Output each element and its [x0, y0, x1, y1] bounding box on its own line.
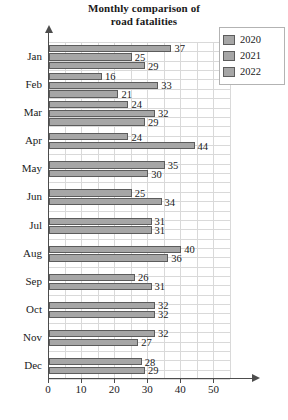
- bar: [49, 283, 152, 290]
- legend-swatch-icon: [223, 35, 235, 45]
- bar: [49, 189, 132, 196]
- chart-title: Monthly comparison of road fatalities: [0, 2, 288, 28]
- bar: [49, 198, 162, 205]
- bar-value-label: 32: [158, 108, 169, 119]
- bar-value-label: 27: [141, 337, 152, 348]
- bar: [49, 90, 118, 97]
- bar: [49, 367, 145, 374]
- bar: [49, 254, 168, 261]
- bar: [49, 311, 155, 318]
- bar-value-label: 37: [174, 43, 185, 54]
- y-axis-label-jul: Jul: [29, 219, 42, 231]
- x-axis-tick-label: 30: [142, 383, 153, 395]
- legend-label: 2020: [240, 35, 261, 46]
- bar: [49, 73, 102, 80]
- bar-value-label: 16: [105, 71, 116, 82]
- bar: [49, 330, 155, 337]
- x-axis-arrow-icon: [252, 374, 260, 382]
- bar: [49, 45, 171, 52]
- y-axis-label-jun: Jun: [27, 190, 42, 202]
- bar: [49, 246, 181, 253]
- legend-label: 2021: [240, 51, 261, 62]
- bar-chart: Monthly comparison of road fatalities Ja…: [0, 0, 288, 420]
- bar-value-label: 30: [151, 168, 162, 179]
- bar-value-label: 25: [135, 188, 146, 199]
- y-axis: [48, 32, 49, 379]
- bar: [49, 133, 128, 140]
- bar-value-label: 29: [148, 60, 159, 71]
- bars-layer: 3725291633212432292444353025343131403626…: [48, 42, 230, 379]
- bar-value-label: 34: [165, 196, 176, 207]
- bar-value-label: 35: [168, 159, 179, 170]
- legend-swatch-icon: [223, 67, 235, 77]
- bar-value-label: 33: [161, 80, 172, 91]
- y-axis-label-apr: Apr: [25, 134, 42, 146]
- bar: [49, 82, 158, 89]
- bar-value-label: 26: [138, 272, 149, 283]
- legend-item[interactable]: 2020: [223, 32, 281, 48]
- x-axis: [48, 378, 252, 379]
- bar: [49, 226, 152, 233]
- bar-value-label: 29: [148, 117, 159, 128]
- y-axis-label-sep: Sep: [26, 275, 43, 287]
- bar-value-label: 31: [155, 224, 166, 235]
- bar-value-label: 29: [148, 365, 159, 376]
- bar-value-label: 44: [198, 140, 209, 151]
- y-axis-category-labels: JanFebMarAprMayJunJulAugSepOctNovDec: [0, 42, 46, 379]
- x-axis-tick-label: 10: [76, 383, 87, 395]
- bar-value-label: 25: [135, 52, 146, 63]
- bar: [49, 302, 155, 309]
- bar-value-label: 32: [158, 328, 169, 339]
- y-axis-label-nov: Nov: [23, 331, 42, 343]
- bar-value-label: 36: [171, 253, 182, 264]
- bar: [49, 101, 128, 108]
- legend-label: 2022: [240, 67, 261, 78]
- bar-value-label: 24: [131, 131, 142, 142]
- bar: [49, 339, 138, 346]
- bar: [49, 110, 155, 117]
- x-axis-tick-label: 20: [109, 383, 120, 395]
- bar: [49, 53, 132, 60]
- grid-line-vertical: [230, 42, 231, 379]
- bar: [49, 170, 148, 177]
- y-axis-label-feb: Feb: [26, 78, 43, 90]
- x-axis-tick-label: 50: [208, 383, 219, 395]
- chart-title-line-1: Monthly comparison of: [0, 2, 288, 15]
- y-axis-label-dec: Dec: [24, 359, 42, 371]
- legend: 202020212022: [219, 27, 285, 85]
- bar: [49, 274, 135, 281]
- y-axis-arrow-icon: [45, 25, 53, 33]
- bar: [49, 358, 142, 365]
- legend-item[interactable]: 2022: [223, 64, 281, 80]
- y-axis-label-may: May: [22, 162, 42, 174]
- bar-value-label: 31: [155, 281, 166, 292]
- y-axis-label-mar: Mar: [24, 106, 42, 118]
- plot-area: 3725291633212432292444353025343131403626…: [48, 42, 230, 379]
- bar-value-label: 40: [184, 244, 195, 255]
- y-axis-label-aug: Aug: [23, 247, 42, 259]
- x-axis-tick-label: 40: [175, 383, 186, 395]
- legend-swatch-icon: [223, 51, 235, 61]
- bar: [49, 118, 145, 125]
- legend-item[interactable]: 2021: [223, 48, 281, 64]
- bar-value-label: 21: [121, 88, 132, 99]
- bar: [49, 161, 165, 168]
- bar-value-label: 32: [158, 309, 169, 320]
- bar: [49, 142, 195, 149]
- y-axis-label-jan: Jan: [27, 50, 42, 62]
- y-axis-label-oct: Oct: [26, 303, 42, 315]
- grid-line-horizontal: [48, 379, 230, 380]
- bar: [49, 218, 152, 225]
- x-axis-tick-labels: 01020304050: [48, 383, 248, 399]
- x-axis-tick-label: 0: [45, 383, 51, 395]
- bar: [49, 62, 145, 69]
- bar-value-label: 24: [131, 99, 142, 110]
